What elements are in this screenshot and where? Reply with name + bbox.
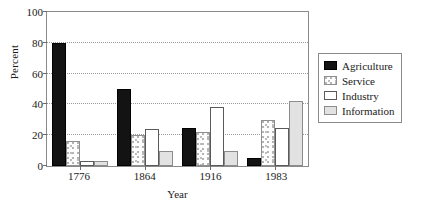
- x-axis-title: Year: [46, 188, 309, 200]
- bar: [247, 158, 261, 166]
- x-tick-label: 1776: [46, 170, 112, 182]
- y-tick-label: 100: [27, 6, 44, 18]
- y-tick-label: 60: [32, 68, 43, 80]
- legend-item[interactable]: Service: [324, 73, 395, 88]
- legend-label: Service: [342, 75, 375, 87]
- bar: [145, 129, 159, 166]
- legend-item[interactable]: Industry: [324, 88, 395, 103]
- bar: [224, 151, 238, 166]
- y-tick-label: 80: [32, 37, 43, 49]
- legend-item[interactable]: Agriculture: [324, 58, 395, 73]
- bar: [196, 132, 210, 166]
- bar: [94, 161, 108, 166]
- bar-group: [243, 12, 308, 166]
- x-tick-label: 1916: [178, 170, 244, 182]
- legend-item[interactable]: Information: [324, 103, 395, 118]
- x-axis-tick-labels: 1776186419161983: [46, 170, 309, 182]
- legend-swatch-icon: [324, 91, 337, 100]
- bar: [66, 141, 80, 166]
- plot-area: 020406080100: [46, 11, 309, 167]
- bar-group: [47, 12, 112, 166]
- x-tick-label: 1983: [243, 170, 309, 182]
- y-tick-label: 0: [38, 160, 44, 172]
- bar-groups: [47, 12, 308, 166]
- legend-label: Information: [342, 105, 395, 117]
- bar: [52, 43, 66, 166]
- legend-swatch-icon: [324, 61, 337, 70]
- chart-legend: AgricultureServiceIndustryInformation: [318, 53, 402, 123]
- bar: [261, 120, 275, 166]
- bar: [117, 89, 131, 166]
- bar: [131, 135, 145, 166]
- bar: [275, 128, 289, 167]
- bar: [182, 128, 196, 167]
- y-axis-title: Percent: [8, 22, 20, 102]
- x-tick-label: 1864: [112, 170, 178, 182]
- bar-group: [112, 12, 177, 166]
- bar: [159, 151, 173, 166]
- y-tick-label: 40: [32, 98, 43, 110]
- bar: [289, 101, 303, 166]
- legend-swatch-icon: [324, 106, 337, 115]
- y-tick-label: 20: [32, 129, 43, 141]
- bar: [80, 161, 94, 166]
- bar-group: [178, 12, 243, 166]
- bar: [210, 107, 224, 166]
- legend-label: Agriculture: [342, 60, 393, 72]
- legend-swatch-icon: [324, 76, 337, 85]
- legend-label: Industry: [342, 90, 379, 102]
- bar-chart-figure: Percent 020406080100 1776186419161983 Ye…: [0, 0, 426, 215]
